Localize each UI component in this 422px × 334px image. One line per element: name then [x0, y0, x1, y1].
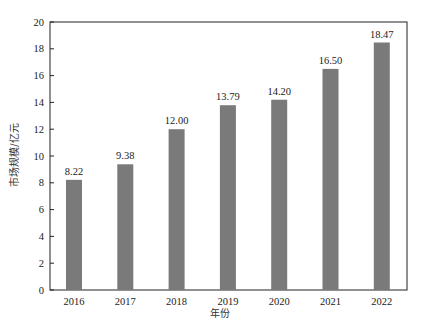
y-tick-label: 10 [34, 151, 45, 162]
x-tick-label: 2016 [64, 296, 85, 307]
y-tick-label: 20 [34, 17, 45, 28]
bar [374, 43, 390, 290]
x-axis-title: 年份 [210, 305, 230, 320]
bar-value-label: 13.79 [216, 91, 240, 102]
y-tick-label: 8 [39, 177, 44, 188]
y-axis: 02468101214161820 [34, 17, 55, 296]
x-tick-label: 2020 [269, 296, 290, 307]
bar-value-label: 12.00 [165, 115, 189, 126]
y-axis-title: 市场规模/亿元 [6, 120, 20, 190]
bar [220, 105, 236, 290]
bars: 8.229.3812.0013.7914.2016.5018.47 [65, 29, 394, 290]
x-tick-label: 2017 [115, 296, 136, 307]
bar-value-label: 8.22 [65, 166, 83, 177]
y-tick-label: 16 [34, 70, 45, 81]
bar [117, 164, 133, 290]
bar [169, 129, 185, 290]
bar-value-label: 9.38 [116, 150, 134, 161]
y-tick-label: 14 [34, 97, 45, 108]
x-tick-label: 2018 [166, 296, 187, 307]
bar-chart: 02468101214161820 8.229.3812.0013.7914.2… [0, 0, 422, 334]
y-tick-label: 2 [39, 258, 44, 269]
y-tick-label: 18 [34, 43, 45, 54]
bar [323, 69, 339, 290]
bar [271, 100, 287, 290]
bar [66, 180, 82, 290]
x-tick-label: 2021 [320, 296, 341, 307]
y-tick-label: 12 [34, 124, 45, 135]
bar-value-label: 16.50 [319, 55, 343, 66]
y-tick-label: 6 [39, 204, 44, 215]
x-tick-label: 2022 [371, 296, 392, 307]
y-tick-label: 4 [39, 231, 45, 242]
bar-value-label: 14.20 [267, 86, 291, 97]
bar-value-label: 18.47 [370, 29, 394, 40]
y-tick-label: 0 [39, 285, 44, 296]
